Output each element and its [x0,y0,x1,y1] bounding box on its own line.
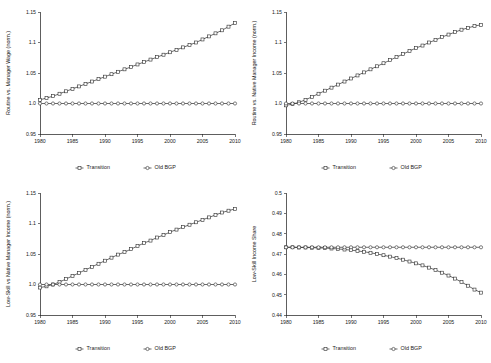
x-tick-label: 2010 [229,319,241,325]
square-marker [175,48,178,51]
square-marker [227,209,230,212]
circle-marker [71,283,74,286]
y-tick-label: 0.45 [272,292,282,298]
square-marker [104,259,107,262]
square-marker [65,278,68,281]
circle-marker [116,102,119,105]
x-tick-label: 2010 [475,138,487,144]
square-marker [208,35,211,38]
y-tick-label: 0.49 [272,210,282,216]
square-marker [65,90,68,93]
x-tick-label: 1985 [313,319,325,325]
legend-label-old-bgp: Old BGP [401,164,423,170]
circle-marker [414,246,417,249]
y-tick-label: 1.15 [26,190,36,196]
square-marker [421,264,424,267]
y-tick-label: 1.05 [272,70,282,76]
y-tick-label: 0.44 [272,312,282,318]
circle-marker [297,246,300,249]
square-marker [169,51,172,54]
square-marker [454,277,457,280]
square-marker [143,61,146,64]
circle-marker [168,283,171,286]
circle-marker [382,102,385,105]
circle-marker [110,102,113,105]
y-tick-label: 0.95 [26,312,36,318]
square-marker [363,250,366,253]
x-tick-label: 2010 [229,138,241,144]
circle-marker [84,283,87,286]
x-tick-label: 1990 [345,319,357,325]
y-axis-title: Routine vs. Native Manager Income (norm.… [251,21,257,126]
square-marker [123,68,126,71]
y-tick-label: 1.1 [29,39,36,45]
y-tick-label: 0.5 [275,190,282,196]
square-marker [337,83,340,86]
circle-marker [330,246,333,249]
square-marker [350,77,353,80]
x-tick-label: 2005 [443,138,455,144]
chart-low-skill-income-share: 0.440.450.460.470.480.490.51980198519901… [246,181,491,362]
square-marker [182,46,185,49]
circle-marker [466,246,469,249]
circle-marker [447,102,450,105]
circle-marker [460,102,463,105]
circle-marker [388,246,391,249]
square-marker [71,274,74,277]
circle-marker [421,102,424,105]
circle-marker [162,283,165,286]
square-marker [234,21,237,24]
circle-marker [392,166,395,169]
y-tick-label: 1.05 [26,70,36,76]
square-marker [58,92,61,95]
x-tick-label: 1995 [378,319,390,325]
square-marker [175,228,178,231]
circle-marker [440,102,443,105]
square-marker [149,58,152,61]
square-marker [91,265,94,268]
square-marker [434,269,437,272]
legend-label-transition: Transition [87,164,110,170]
x-tick-label: 2005 [197,138,209,144]
x-tick-label: 1990 [99,319,111,325]
square-marker [71,87,74,90]
circle-marker [97,102,100,105]
square-marker [104,75,107,78]
circle-marker [110,283,113,286]
square-marker [402,53,405,56]
square-marker [317,92,320,95]
square-marker [143,242,146,245]
circle-marker [136,102,139,105]
circle-marker [427,102,430,105]
circle-marker [395,246,398,249]
circle-marker [38,102,41,105]
square-marker [408,260,411,263]
circle-marker [466,102,469,105]
square-marker [473,25,476,28]
square-marker [188,43,191,46]
square-marker [480,23,483,26]
circle-marker [58,283,61,286]
circle-marker [336,246,339,249]
circle-marker [38,283,41,286]
circle-marker [408,102,411,105]
square-marker [227,25,230,28]
square-marker [467,284,470,287]
circle-marker [149,283,152,286]
circle-marker [194,283,197,286]
circle-marker [162,102,165,105]
square-marker [78,348,81,351]
legend-label-transition: Transition [333,345,356,351]
circle-marker [362,102,365,105]
series-line-transition [286,25,481,106]
y-tick-label: 1.0 [275,100,282,106]
circle-marker [77,283,80,286]
circle-marker [447,246,450,249]
circle-marker [434,102,437,105]
circle-marker [317,246,320,249]
circle-marker [310,246,313,249]
square-marker [97,262,100,265]
circle-marker [168,102,171,105]
circle-marker [220,283,223,286]
x-tick-label: 1980 [280,138,292,144]
